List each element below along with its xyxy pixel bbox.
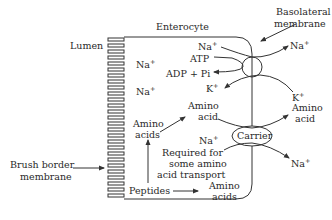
amino-acids-bottom-line1: Amino (208, 180, 240, 191)
amino-acids-left-line2: acids (135, 129, 160, 140)
amino-acids-bottom-line2: acids (212, 191, 237, 202)
na-ion-cytoplasm-2: Na+ (136, 85, 155, 97)
adp-pi-label: ADP + Pi (165, 68, 210, 79)
carrier-label: Carrier (237, 130, 273, 141)
na-ion-extracellular-bottom: Na+ (291, 157, 310, 169)
na-ion-required: Na+ (199, 134, 218, 146)
enterocyte-label: Enterocyte (156, 21, 209, 32)
amino-acid-outside-line2: acid (295, 113, 315, 124)
required-label-line1: Required for (162, 147, 224, 158)
peptides-label: Peptides (129, 185, 170, 196)
brush-border-label-line2: membrane (20, 171, 72, 182)
na-ion-label: Na+ (198, 40, 217, 52)
atp-label: ATP (189, 53, 210, 64)
na-ion-extracellular-top: Na+ (290, 39, 309, 51)
amino-acid-inside-line2: acid (198, 111, 218, 122)
basolateral-label-line1: Basolateral (276, 6, 331, 17)
required-label-line2: some amino (169, 158, 227, 169)
enterocyte-transport-diagram: Enterocyte Lumen Basolateral membrane Br… (0, 0, 332, 220)
amino-acid-inside-line1: Amino (187, 100, 219, 111)
lumen-label: Lumen (70, 40, 103, 51)
brush-border-microvilli (108, 38, 124, 197)
na-ion-cytoplasm-1: Na+ (136, 58, 155, 70)
amino-acid-outside-line1: Amino (291, 102, 323, 113)
amino-acids-left-line1: Amino (132, 118, 164, 129)
basolateral-label-line2: membrane (274, 18, 326, 29)
k-ion-label: K+ (206, 82, 219, 94)
brush-border-label-line1: Brush border (10, 159, 75, 170)
required-label-line3: acid transport (157, 169, 225, 180)
